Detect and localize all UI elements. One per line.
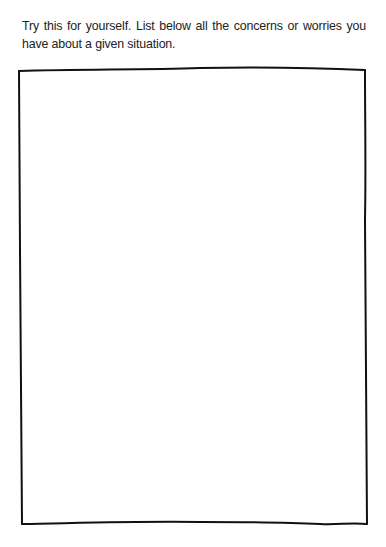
response-box[interactable] <box>0 0 386 547</box>
box-bottom-edge <box>22 522 367 524</box>
box-left-edge <box>19 71 22 524</box>
box-top-edge <box>19 68 365 71</box>
box-right-edge <box>365 70 367 524</box>
